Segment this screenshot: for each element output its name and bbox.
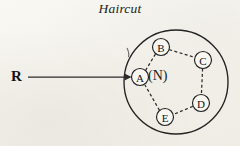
root-ray-arrowhead [125, 74, 132, 81]
scan-smudge-artifact [127, 48, 129, 57]
node-d[interactable]: D [193, 95, 210, 112]
node-c[interactable]: C [195, 52, 212, 69]
node-b[interactable]: B [153, 39, 170, 56]
inner-neighborhood-label: (N) [148, 69, 167, 83]
figure-canvas: Haircut A B C D [0, 0, 240, 146]
haircut-diagram: A B C D E [0, 0, 240, 146]
edge-c-d [201, 69, 202, 95]
edge-d-e [173, 106, 192, 114]
node-e[interactable]: E [157, 109, 174, 126]
node-d-label: D [197, 98, 205, 110]
edge-e-a [145, 85, 160, 110]
external-root-label: R [11, 69, 22, 84]
node-a-label: A [136, 72, 144, 84]
node-e-label: E [162, 112, 169, 124]
edge-b-c [169, 50, 195, 58]
node-b-label: B [157, 42, 164, 54]
node-a[interactable]: A [132, 69, 149, 86]
node-c-label: C [199, 55, 206, 67]
